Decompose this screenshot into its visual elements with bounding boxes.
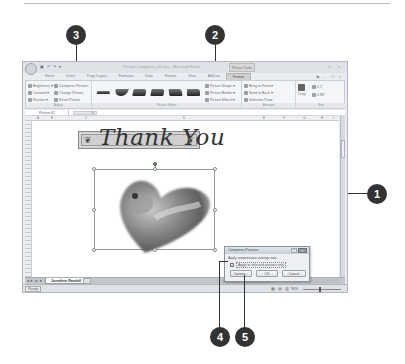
picture-border-icon [205,91,209,95]
compress-pictures-button[interactable]: Compress Pictures [54,84,89,88]
vertical-scroll-thumb[interactable] [341,140,345,158]
change-picture-icon [54,91,58,95]
window-controls[interactable]: – □ × [319,64,343,69]
resize-handle-se[interactable] [213,248,217,252]
ribbon-tabs: Home Insert Page Layout Formulas Data Re… [39,73,251,80]
fx-button[interactable]: fx [73,111,97,115]
picture-style-2[interactable] [113,85,130,99]
ok-button[interactable]: OK [256,270,278,277]
cancel-button[interactable]: Cancel [282,270,306,277]
callout-2: 2 [205,25,225,45]
picture-style-3[interactable] [131,85,148,99]
width-icon [312,93,316,97]
reset-picture-button[interactable]: Reset Picture [54,98,80,102]
width-field[interactable]: 2.88" [312,93,325,97]
title-bar: ▣ ↶ ↷ ▾ Picture Compress_02.xlsx - Micro… [23,62,347,73]
resize-handle-sw[interactable] [92,248,96,252]
callout-4-line [219,261,220,333]
apply-selected-only-checkbox[interactable]: ✓ Apply to selected pictures only [230,262,286,268]
brightness-icon [28,84,32,88]
tab-home[interactable]: Home [39,73,60,80]
compress-icon [54,84,58,88]
row-headers[interactable] [25,121,32,277]
picture-style-5[interactable] [167,85,184,99]
arrange-group: Bring to Front ▾ Send to Back ▾ Selectio… [242,81,296,108]
dialog-close-button[interactable]: ✕ [298,248,307,253]
tab-formulas[interactable]: Formulas [113,73,140,80]
callout-4-line-horizontal [219,261,228,262]
callout-3: 3 [66,25,86,45]
send-to-back-icon [244,91,248,95]
picture-styles-group: Picture Shape ▾ Picture Border ▾ Picture… [92,81,242,108]
crop-icon [298,84,305,91]
picture-shape-button[interactable]: Picture Shape ▾ [205,84,235,88]
crop-button[interactable]: Crop [298,84,306,96]
resize-handle-ne[interactable] [213,167,217,171]
height-field[interactable]: 2.1" [312,85,323,89]
resize-handle-n[interactable] [153,167,157,171]
resize-handle-s[interactable] [153,248,157,252]
resize-handle-w[interactable] [92,208,96,212]
picture-tools-label: Picture Tools [229,63,255,72]
picture-effects-button[interactable]: Picture Effects ▾ [205,98,235,102]
vertical-scrollbar[interactable] [340,116,345,277]
tab-data[interactable]: Data [139,73,158,80]
resize-handle-e[interactable] [213,208,217,212]
banner-text: Thank You [99,124,225,150]
picture-shape-icon [205,84,209,88]
resize-handle-nw[interactable] [92,167,96,171]
status-ready: Ready [25,286,41,292]
thank-you-banner[interactable]: ❦ Thank You ❦ [78,131,200,149]
height-icon [312,85,316,89]
office-button[interactable] [25,63,37,75]
options-button[interactable]: Options... [230,270,252,277]
callout-4: 4 [210,327,230,347]
size-group: Crop 2.1" 2.88" Size [296,81,346,108]
selection-pane-button[interactable]: Selection Pane [244,98,273,102]
recolor-icon [28,98,32,102]
picture-border-button[interactable]: Picture Border ▾ [205,91,235,95]
size-group-label: Size [296,103,346,108]
brightness-button[interactable]: Brightness ▾ [28,84,53,88]
ornament-left-icon: ❦ [82,135,94,146]
picture-style-1[interactable] [95,85,112,99]
view-buttons[interactable]: ▦ ▤ ▥ [271,287,290,291]
tab-view[interactable]: View [182,73,202,80]
picture-effects-icon [205,98,209,102]
contrast-button[interactable]: Contrast ▾ [28,91,49,95]
zoom-level[interactable]: 90% [291,287,298,291]
dialog-help-button[interactable]: ? [291,248,297,253]
send-to-back-button[interactable]: Send to Back ▾ [244,91,273,95]
window-title: Picture Compress_02.xlsx - Microsoft Exc… [123,64,200,69]
picture-style-6[interactable] [185,85,202,99]
tab-insert[interactable]: Insert [60,73,81,80]
change-picture-button[interactable]: Change Picture [54,91,83,95]
bring-to-front-button[interactable]: Bring to Front ▾ [244,84,273,88]
ribbon-help-controls[interactable]: ◉ – □ × [316,74,343,79]
zoom-slider[interactable] [303,289,341,290]
ribbon: Brightness ▾ Contrast ▾ Recolor ▾ Compre… [25,80,345,109]
tab-add-ins[interactable]: Add-Ins [202,73,226,80]
heart-picture [115,178,215,258]
selected-picture[interactable] [94,169,215,250]
quick-access-toolbar[interactable]: ▣ ↶ ↷ ▾ [40,64,62,69]
arrange-group-label: Arrange [242,103,295,108]
callout-5-line [244,275,245,333]
excel-window: ▣ ↶ ↷ ▾ Picture Compress_02.xlsx - Micro… [22,61,348,293]
selection-pane-icon [244,98,248,102]
checkbox-icon[interactable]: ✓ [230,263,234,267]
bring-to-front-icon [244,84,248,88]
callout-5: 5 [235,327,255,347]
compress-pictures-dialog: Compress Pictures ? ✕ Apply compression … [224,246,310,282]
dialog-label: Apply compression settings now [228,256,276,260]
picture-style-4[interactable] [149,85,166,99]
tab-format[interactable]: Format [226,73,251,80]
status-bar: Ready ▦ ▤ ▥ 90% [23,284,347,293]
tab-review[interactable]: Review [159,73,182,80]
picture-styles-group-label: Picture Styles [92,103,241,108]
recolor-button[interactable]: Recolor ▾ [28,98,48,102]
adjust-group: Brightness ▾ Contrast ▾ Recolor ▾ Compre… [26,81,92,108]
tab-page-layout[interactable]: Page Layout [81,73,113,80]
rotation-handle[interactable] [153,162,157,166]
ornament-right-icon: ❦ [184,135,196,146]
